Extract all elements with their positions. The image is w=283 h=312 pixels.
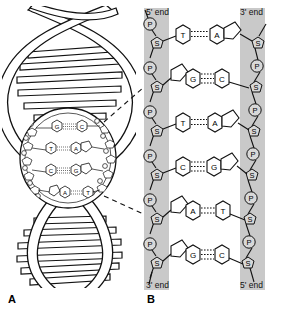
base-3-right: A (212, 119, 218, 128)
base-3-left: T (181, 119, 186, 128)
base-2-right: C (219, 75, 225, 84)
base-6-right: C (219, 251, 225, 260)
panel-b-ladder: P P P P P P S (144, 7, 266, 290)
helix-magnified-inset: G C T (20, 108, 116, 208)
inset-base-3-right: G (74, 168, 79, 174)
left-phosphate-label-5: P (147, 196, 152, 205)
left-sugar-label-6: S (154, 259, 159, 268)
inset-base-4-left: A (63, 190, 67, 196)
right-sugar-label-3: S (251, 127, 256, 136)
left-phosphate-label-1: P (147, 20, 152, 29)
left-phosphate-label-4: P (147, 152, 152, 161)
base-1-right: A (214, 31, 220, 40)
base-pair-row-6: G C (163, 240, 243, 264)
right-phosphate-label-4: P (248, 194, 253, 203)
base-5-left: A (190, 207, 196, 216)
left-sugar-label-5: S (154, 215, 159, 224)
right-sugar-label-1: S (255, 39, 260, 48)
base-3-right-purine-ring (222, 110, 239, 127)
right-phosphate-label-2: P (252, 106, 257, 115)
base-4-left: C (180, 163, 186, 172)
base-4-right: G (211, 163, 217, 172)
hbonds-5 (201, 208, 215, 213)
right-phosphate-label-5: P (246, 238, 251, 247)
inset-base-1-left: G (55, 124, 60, 130)
inset-base-2-right: A (74, 146, 78, 152)
panel-a-letter: A (8, 294, 16, 305)
inset-base-3-left: C (49, 168, 54, 174)
right-sugar-label-5: S (247, 215, 252, 224)
left-sugar-label-4: S (154, 171, 159, 180)
base-pair-row-4: C G (163, 153, 247, 176)
base-4-right-purine-ring (221, 153, 238, 170)
helix-bottom-crossing (30, 289, 118, 305)
panel-b-letter: B (147, 294, 155, 305)
helix-top-crossing (30, 3, 118, 20)
label-3prime-top-right: 3' end (240, 7, 263, 17)
left-phosphate-label-2: P (147, 64, 152, 73)
hbonds-6 (201, 250, 214, 259)
base-1-left: T (181, 31, 186, 40)
dna-figure: G C T (0, 0, 283, 312)
left-sugar-label-1: S (154, 39, 159, 48)
base-5-right: T (221, 207, 226, 216)
figure-canvas: G C T (0, 0, 283, 312)
right-sugar-label-6: S (245, 259, 250, 268)
hbonds-2 (201, 74, 214, 83)
right-phosphate-label-1: P (254, 62, 259, 71)
left-sugar-label-2: S (154, 83, 159, 92)
inset-base-2-left: T (49, 146, 53, 152)
left-phosphate-label-6: P (147, 240, 152, 249)
inset-base-4-right: T (86, 190, 90, 196)
left-sugar-label-3: S (154, 127, 159, 136)
base-pair-row-2: G C (163, 64, 249, 88)
left-phosphate-label-3: P (147, 108, 152, 117)
hbonds-1 (191, 32, 209, 37)
base-pair-row-3: T A (163, 110, 249, 132)
right-sugar-label-4: S (249, 171, 254, 180)
right-phosphate-label-3: P (250, 150, 255, 159)
base-2-left: G (190, 75, 196, 84)
base-pair-row-1: T A (163, 22, 252, 44)
right-sugar-label-2: S (253, 83, 258, 92)
label-5prime-top-left: 5' end (146, 7, 169, 17)
hbonds-4 (191, 162, 206, 171)
label-3prime-bottom-left: 3' end (146, 280, 169, 290)
base-pair-row-5: A T (163, 196, 245, 220)
base-1-right-purine-ring (224, 22, 241, 39)
label-5prime-bottom-right: 5' end (240, 280, 263, 290)
hbonds-3 (191, 120, 207, 125)
base-6-left: G (190, 251, 196, 260)
inset-base-1-right: C (80, 124, 85, 130)
